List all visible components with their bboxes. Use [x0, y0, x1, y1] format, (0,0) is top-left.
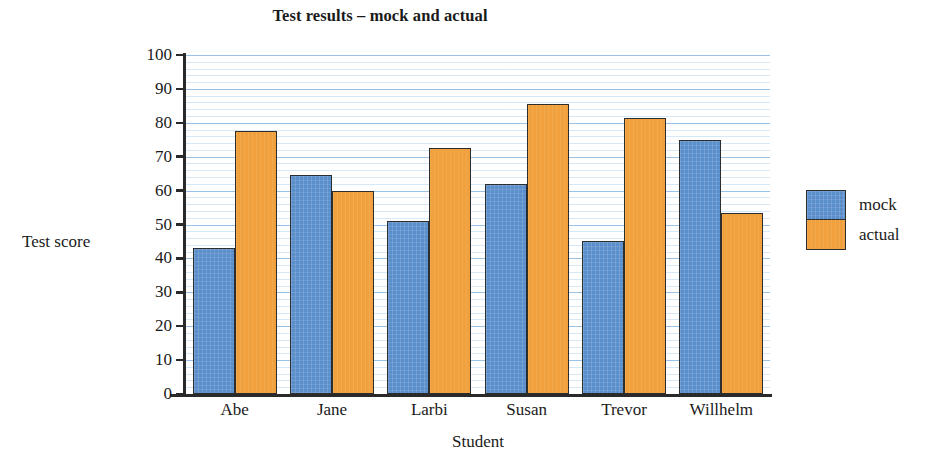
x-axis-label-willhelm: Willhelm — [656, 400, 786, 420]
bar-larbi-actual — [429, 148, 471, 394]
y-axis-tick — [176, 54, 185, 57]
x-axis-line — [170, 394, 772, 397]
bar-abe-mock — [193, 248, 235, 394]
bar-trevor-actual — [624, 118, 666, 394]
y-axis-tick — [176, 122, 185, 125]
bar-jane-mock — [290, 175, 332, 394]
y-axis-tick-label: 30 — [132, 283, 172, 300]
y-axis-tick-label: 20 — [132, 317, 172, 334]
legend-swatch-actual — [806, 220, 846, 250]
bar-willhelm-actual — [721, 213, 763, 394]
y-axis-tick — [176, 257, 185, 260]
legend-item-actual: actual — [806, 220, 900, 250]
y-axis-tick — [176, 88, 185, 91]
x-axis-title: Student — [186, 432, 770, 452]
plot-area — [186, 55, 770, 394]
bar-willhelm-mock — [679, 140, 721, 394]
y-axis-tick-label: 60 — [132, 182, 172, 199]
y-axis-tick-label: 10 — [132, 351, 172, 368]
y-axis-tick-label: 50 — [132, 216, 172, 233]
y-axis-tick — [176, 189, 185, 192]
chart-legend: mockactual — [806, 190, 900, 250]
bar-jane-actual — [332, 191, 374, 394]
bar-larbi-mock — [387, 221, 429, 394]
chart-title: Test results – mock and actual — [0, 6, 760, 26]
legend-swatch-mock — [806, 190, 846, 220]
y-axis-tick-label: 70 — [132, 148, 172, 165]
legend-label-mock: mock — [859, 195, 897, 215]
y-axis-tick-label: 40 — [132, 249, 172, 266]
y-axis-tick — [176, 359, 185, 362]
legend-label-actual: actual — [859, 225, 900, 245]
bar-abe-actual — [235, 131, 277, 394]
y-axis-tick-label: 100 — [132, 46, 172, 63]
bar-susan-mock — [485, 184, 527, 394]
y-axis-tick — [176, 291, 185, 294]
y-axis-tick — [176, 325, 185, 328]
bar-trevor-mock — [582, 241, 624, 394]
y-axis-tick — [176, 223, 185, 226]
bar-susan-actual — [527, 104, 569, 394]
y-axis-tick-label: 90 — [132, 80, 172, 97]
y-axis-tick — [176, 155, 185, 158]
y-axis-tick-label: 0 — [132, 385, 172, 402]
y-axis-title: Test score — [22, 232, 142, 252]
legend-item-mock: mock — [806, 190, 900, 220]
bar-chart-figure: Test results – mock and actual Test scor… — [0, 0, 934, 474]
y-axis-tick-labels: 0102030405060708090100 — [128, 0, 172, 474]
y-axis-tick-label: 80 — [132, 114, 172, 131]
y-axis-tick — [176, 393, 185, 396]
